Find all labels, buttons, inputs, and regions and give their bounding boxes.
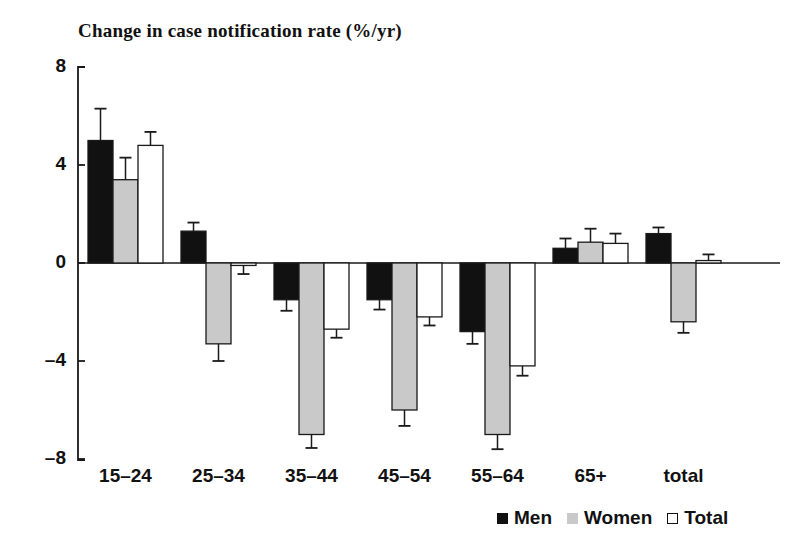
y-tick-label-2: 0 <box>26 251 66 273</box>
legend-item-men: Men <box>497 507 552 529</box>
bar-men-6 <box>646 234 671 263</box>
error-bar-men-2 <box>281 300 293 311</box>
figure: Change in case notification rate (%/yr) … <box>0 0 788 555</box>
bar-women-5 <box>578 242 603 263</box>
bar-men-1 <box>181 231 206 263</box>
bar-total-1 <box>231 263 256 265</box>
legend-label-men: Men <box>514 507 552 529</box>
error-bar-men-5 <box>560 239 572 249</box>
bar-total-0 <box>138 145 163 263</box>
legend-swatch-men-icon <box>497 513 508 524</box>
error-bar-men-0 <box>95 109 107 141</box>
error-bar-men-4 <box>467 332 479 344</box>
error-bar-women-0 <box>120 158 132 180</box>
y-tick-label-4: –8 <box>26 447 66 469</box>
legend-item-total: Total <box>667 507 728 529</box>
bar-total-4 <box>510 263 535 366</box>
error-bar-men-1 <box>188 223 200 232</box>
bar-women-4 <box>485 263 510 435</box>
bar-total-2 <box>324 263 349 329</box>
bar-women-6 <box>671 263 696 322</box>
legend-label-total: Total <box>684 507 728 529</box>
error-bar-women-2 <box>306 435 318 448</box>
bar-total-5 <box>603 243 628 263</box>
bar-men-3 <box>367 263 392 300</box>
bar-total-3 <box>417 263 442 317</box>
bar-total-6 <box>696 261 721 263</box>
y-tick-label-0: 8 <box>26 55 66 77</box>
error-bar-total-3 <box>424 317 436 326</box>
error-bar-women-3 <box>399 410 411 426</box>
error-bar-total-2 <box>331 329 343 338</box>
legend-swatch-total-icon <box>667 513 678 524</box>
y-tick-label-3: –4 <box>26 349 66 371</box>
chart-legend: Men Women Total <box>497 507 736 529</box>
error-bar-total-4 <box>517 366 529 376</box>
bar-men-5 <box>553 248 578 263</box>
legend-swatch-women-icon <box>567 513 578 524</box>
error-bar-women-6 <box>678 322 690 333</box>
bar-women-0 <box>113 180 138 263</box>
bar-men-0 <box>88 141 113 264</box>
error-bar-total-6 <box>703 254 715 260</box>
error-bar-men-3 <box>374 300 386 310</box>
y-tick-label-1: 4 <box>26 153 66 175</box>
error-bar-total-1 <box>238 265 250 274</box>
bar-women-2 <box>299 263 324 435</box>
error-bar-total-0 <box>145 132 157 145</box>
error-bar-men-6 <box>653 227 665 233</box>
legend-label-women: Women <box>584 507 652 529</box>
bar-women-1 <box>206 263 231 344</box>
bar-men-2 <box>274 263 299 300</box>
error-bar-women-5 <box>585 229 597 242</box>
error-bar-women-4 <box>492 435 504 450</box>
bar-women-3 <box>392 263 417 410</box>
bar-men-4 <box>460 263 485 332</box>
x-category-label-6: total <box>624 465 744 487</box>
error-bar-women-1 <box>213 344 225 361</box>
legend-item-women: Women <box>567 507 652 529</box>
error-bar-total-5 <box>610 234 622 244</box>
